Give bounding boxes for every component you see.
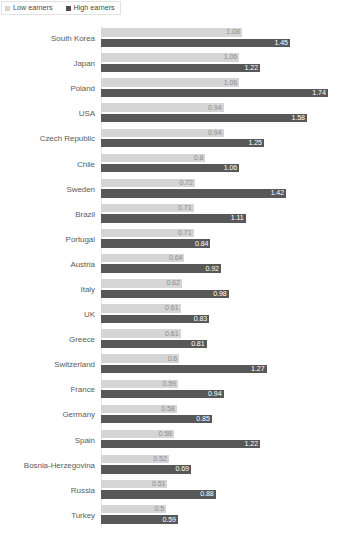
bar-high[interactable]: 0.94 — [101, 390, 224, 398]
bar-value-label: 0.56 — [159, 430, 172, 438]
bar-high[interactable]: 0.59 — [101, 515, 178, 523]
bar-high[interactable]: 1.25 — [101, 139, 264, 147]
bar-row: Brazil0.711.11 — [0, 202, 346, 227]
bar-group: 0.941.25 — [101, 126, 346, 151]
category-label: Portugal — [0, 227, 95, 252]
bar-low[interactable]: 1.06 — [101, 53, 239, 61]
category-label: Japan — [0, 51, 95, 76]
bar-high[interactable]: 0.88 — [101, 490, 216, 498]
bar-row: Russia0.510.88 — [0, 478, 346, 503]
bar-group: 0.81.06 — [101, 151, 346, 176]
bar-high[interactable]: 1.45 — [101, 39, 290, 47]
bar-row: USA0.941.58 — [0, 101, 346, 126]
bar-low[interactable]: 0.56 — [101, 430, 174, 438]
category-label: Austria — [0, 252, 95, 277]
bar-value-label: 0.81 — [191, 340, 204, 348]
legend-label-high-earners: High earners — [74, 4, 115, 12]
bar-low[interactable]: 0.5 — [101, 505, 166, 513]
bar-high[interactable]: 1.27 — [101, 365, 267, 373]
bar-low[interactable]: 1.08 — [101, 28, 242, 36]
category-label: USA — [0, 101, 95, 126]
bar-low[interactable]: 0.6 — [101, 354, 179, 362]
category-label: Spain — [0, 428, 95, 453]
bar-group: 0.61.27 — [101, 352, 346, 377]
bar-row: Turkey0.50.59 — [0, 503, 346, 528]
legend-item-low-earners[interactable]: Low earners — [5, 4, 53, 12]
bar-value-label: 1.08 — [226, 28, 239, 36]
bar-low[interactable]: 0.59 — [101, 380, 178, 388]
bar-value-label: 0.72 — [179, 179, 192, 187]
bar-high[interactable]: 1.74 — [101, 89, 328, 97]
bar-value-label: 0.71 — [178, 229, 191, 237]
bar-row: Poland1.061.74 — [0, 76, 346, 101]
bar-high[interactable]: 1.06 — [101, 164, 239, 172]
bar-group: 0.620.98 — [101, 277, 346, 302]
bar-high[interactable]: 0.83 — [101, 315, 209, 323]
bar-high[interactable]: 0.98 — [101, 290, 229, 298]
bar-high[interactable]: 0.92 — [101, 264, 221, 272]
bar-row: Greece0.610.81 — [0, 327, 346, 352]
legend-item-high-earners[interactable]: High earners — [66, 4, 115, 12]
bar-value-label: 0.71 — [178, 204, 191, 212]
bar-value-label: 0.61 — [165, 304, 178, 312]
bar-value-label: 0.94 — [208, 390, 221, 398]
bar-high[interactable]: 0.84 — [101, 239, 210, 247]
bar-value-label: 0.85 — [196, 415, 209, 423]
bar-high[interactable]: 1.42 — [101, 189, 286, 197]
bar-low[interactable]: 0.71 — [101, 229, 194, 237]
bar-high[interactable]: 0.81 — [101, 340, 207, 348]
chart-legend: Low earners High earners — [1, 1, 121, 15]
plot-area: South Korea1.081.45Japan1.061.22Poland1.… — [0, 26, 346, 541]
bar-group: 0.721.42 — [101, 177, 346, 202]
bar-value-label: 0.88 — [200, 490, 213, 498]
bar-high[interactable]: 1.11 — [101, 214, 246, 222]
bar-low[interactable]: 1.06 — [101, 78, 239, 86]
bar-value-label: 1.11 — [231, 214, 244, 222]
bar-low[interactable]: 0.58 — [101, 405, 177, 413]
category-label: Chile — [0, 151, 95, 176]
bar-value-label: 0.51 — [152, 480, 165, 488]
bar-value-label: 0.61 — [165, 330, 178, 338]
bar-low[interactable]: 0.61 — [101, 329, 181, 337]
category-label: Italy — [0, 277, 95, 302]
bar-high[interactable]: 0.85 — [101, 415, 212, 423]
category-label: Poland — [0, 76, 95, 101]
category-label: Russia — [0, 478, 95, 503]
bar-low[interactable]: 0.8 — [101, 154, 205, 162]
bar-high[interactable]: 0.69 — [101, 465, 191, 473]
bar-row: Austria0.640.92 — [0, 252, 346, 277]
bar-value-label: 1.22 — [245, 64, 258, 72]
bar-value-label: 0.59 — [162, 516, 175, 524]
bar-group: 0.710.84 — [101, 227, 346, 252]
bar-value-label: 0.94 — [208, 129, 221, 137]
category-label: Switzerland — [0, 352, 95, 377]
bar-low[interactable]: 0.62 — [101, 279, 182, 287]
bar-high[interactable]: 1.22 — [101, 64, 260, 72]
bar-low[interactable]: 0.94 — [101, 129, 224, 137]
bar-group: 1.081.45 — [101, 26, 346, 51]
bar-low[interactable]: 0.72 — [101, 179, 195, 187]
bar-group: 0.941.58 — [101, 101, 346, 126]
bar-low[interactable]: 0.52 — [101, 455, 169, 463]
bar-row: Japan1.061.22 — [0, 51, 346, 76]
category-label: Greece — [0, 327, 95, 352]
bar-low[interactable]: 0.61 — [101, 304, 181, 312]
grouped-bar-chart: Low earners High earners South Korea1.08… — [0, 0, 346, 551]
bar-low[interactable]: 0.51 — [101, 480, 167, 488]
category-label: UK — [0, 302, 95, 327]
bar-low[interactable]: 0.71 — [101, 204, 194, 212]
bar-low[interactable]: 0.94 — [101, 103, 224, 111]
bar-value-label: 0.62 — [166, 279, 179, 287]
bar-value-label: 1.74 — [312, 89, 325, 97]
bar-value-label: 0.83 — [194, 315, 207, 323]
bar-group: 0.711.11 — [101, 202, 346, 227]
bar-value-label: 1.22 — [245, 440, 258, 448]
bar-value-label: 0.58 — [161, 405, 174, 413]
bar-low[interactable]: 0.64 — [101, 254, 184, 262]
bar-high[interactable]: 1.22 — [101, 440, 260, 448]
bar-group: 0.561.22 — [101, 428, 346, 453]
bar-value-label: 1.27 — [251, 365, 264, 373]
bar-value-label: 0.8 — [194, 154, 204, 162]
bar-value-label: 0.6 — [168, 355, 178, 363]
bar-high[interactable]: 1.58 — [101, 114, 307, 122]
